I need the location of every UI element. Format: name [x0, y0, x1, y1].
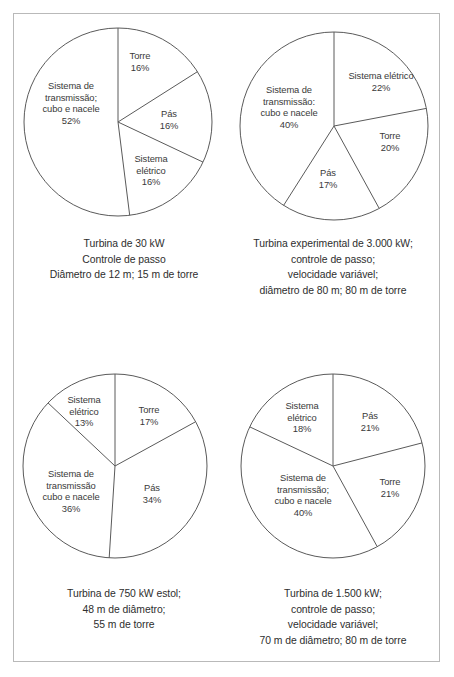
pie-chart-turbina-1500kw: Pás 21% Torre 21% Sistema de transmissão…: [239, 372, 427, 560]
caption-turbina-1500kw: Turbina de 1.500 kW; controle de passo; …: [226, 586, 440, 648]
pie-chart-turbina-30kw-svg: [22, 26, 214, 218]
caption-turbina-30kw: Turbina de 30 kW Controle de passo Diâme…: [18, 236, 230, 283]
pie-chart-turbina-750kw: Torre 17% Pás 34% Sistema de transmissão…: [21, 372, 209, 560]
figure-frame: Torre 16% Pás 16% Sistema elétrico 16% S…: [13, 13, 440, 662]
caption-turbina-3000kw: Turbina experimental de 3.000 kW; contro…: [226, 236, 440, 298]
pie-chart-turbina-3000kw: Sistema elétrico 22% Torre 20% Pás 17% S…: [238, 30, 430, 222]
pie-chart-turbina-1500kw-svg: [239, 372, 427, 560]
caption-turbina-750kw: Turbina de 750 kW estol; 48 m de diâmetr…: [20, 586, 228, 633]
pie-chart-turbina-750kw-svg: [21, 372, 209, 560]
pie-chart-turbina-30kw: Torre 16% Pás 16% Sistema elétrico 16% S…: [22, 26, 214, 218]
pie-chart-turbina-3000kw-svg: [238, 30, 430, 222]
